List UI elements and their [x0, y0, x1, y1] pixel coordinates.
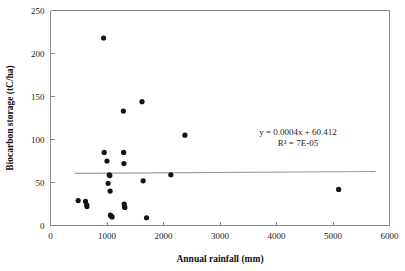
y-tick-label: 250	[31, 6, 45, 16]
x-tick-label: 1000	[98, 231, 117, 241]
data-point	[336, 187, 341, 192]
data-point	[106, 181, 111, 186]
y-tick-label: 0	[40, 221, 45, 231]
data-point	[107, 173, 112, 178]
data-point	[121, 161, 126, 166]
regression-trendline	[75, 172, 376, 174]
y-tick-label: 200	[31, 49, 45, 59]
data-point	[84, 204, 89, 209]
x-tick-label: 6000	[381, 231, 400, 241]
y-tick-label: 100	[31, 135, 45, 145]
data-point	[168, 172, 173, 177]
data-point	[104, 158, 109, 163]
data-point	[121, 109, 126, 114]
data-point	[109, 214, 114, 219]
x-tick-label: 4000	[268, 231, 287, 241]
x-axis-title: Annual rainfall (mm)	[176, 254, 263, 265]
data-point	[139, 99, 144, 104]
r-squared-label: R² = 7E-05	[278, 138, 319, 148]
data-point	[121, 150, 126, 155]
data-point	[76, 198, 81, 203]
scatter-chart-figure: 050100150200250 010002000300040005000600…	[0, 0, 405, 271]
y-tick-label: 150	[31, 92, 45, 102]
x-tick-label: 5000	[324, 231, 343, 241]
y-tick-label: 50	[36, 178, 46, 188]
x-tick-label: 2000	[155, 231, 174, 241]
data-point	[144, 215, 149, 220]
data-point	[101, 35, 106, 40]
data-point	[141, 178, 146, 183]
x-tick-label: 0	[48, 231, 53, 241]
chart-canvas: 050100150200250 010002000300040005000600…	[0, 0, 405, 271]
data-point	[108, 189, 113, 194]
axes	[51, 11, 390, 226]
x-axis-ticks: 0100020003000400050006000	[48, 222, 399, 241]
data-point	[102, 150, 107, 155]
x-tick-label: 3000	[211, 231, 230, 241]
data-point	[182, 133, 187, 138]
data-point	[122, 205, 127, 210]
y-axis-title: Biocarbon storage (tC/ha)	[5, 65, 16, 171]
regression-equation-label: y = 0.0004x + 60.412	[259, 127, 337, 137]
